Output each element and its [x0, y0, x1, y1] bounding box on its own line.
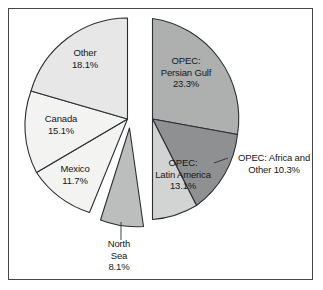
pie-canvas [0, 0, 323, 290]
slice-label-line-1: OPEC: Africa and [228, 152, 320, 164]
slice-label-other: Other 18.1% [57, 47, 113, 70]
slice-label-line-2: Sea [91, 250, 147, 262]
slice-label-opec-latin-america: OPEC: Latin America 13.1% [141, 157, 225, 192]
slice-label-line-1: Canada [33, 113, 89, 125]
pie-chart-figure: OPEC: Persian Gulf 23.3% Other 18.1% Can… [0, 0, 323, 290]
slice-label-line-2: Persian Gulf [150, 67, 222, 79]
slice-label-line-2: Latin America [141, 169, 225, 181]
slice-label-north-sea: North Sea 8.1% [91, 238, 147, 273]
slice-label-canada: Canada 15.1% [33, 113, 89, 136]
slice-label-line-1: OPEC: [150, 55, 222, 67]
slice-label-value: 18.1% [57, 59, 113, 71]
slice-label-line-1: Other [57, 47, 113, 59]
slice-label-line-1: Mexico [47, 163, 103, 175]
slice-label-opec-africa-and-other: OPEC: Africa and Other 10.3% [228, 152, 320, 176]
slice-label-mexico: Mexico 11.7% [47, 163, 103, 186]
slice-label-line-1: North [91, 238, 147, 250]
slice-label-value: 8.1% [91, 261, 147, 273]
slice-label-value: 23.3% [150, 78, 222, 90]
slice-label-line-2: Other 10.3% [228, 164, 320, 176]
slice-label-value: 15.1% [33, 125, 89, 137]
slice-label-line-1: OPEC: [141, 157, 225, 169]
slice-label-opec-persian-gulf: OPEC: Persian Gulf 23.3% [150, 55, 222, 90]
slice-label-value: 11.7% [47, 175, 103, 187]
slice-label-value: 13.1% [141, 180, 225, 192]
